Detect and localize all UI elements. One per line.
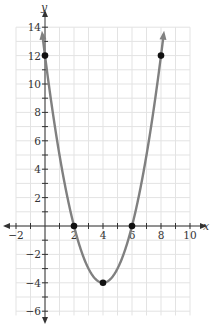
y-tick-label: −4 xyxy=(26,277,42,289)
x-tick-label: 10 xyxy=(183,229,196,241)
data-point xyxy=(100,280,107,287)
y-tick-label: 6 xyxy=(34,135,41,147)
grid xyxy=(16,27,190,315)
y-tick-label: −2 xyxy=(26,248,41,260)
x-tick-label: −2 xyxy=(8,229,23,241)
y-tick-label: 12 xyxy=(28,50,41,62)
data-point xyxy=(71,223,78,230)
x-tick-label: 4 xyxy=(100,229,107,241)
y-tick-label: 8 xyxy=(34,106,41,118)
x-axis-label: x xyxy=(203,220,210,233)
y-axis-label: y xyxy=(40,1,48,14)
data-point xyxy=(129,223,136,230)
y-tick-label: 14 xyxy=(28,21,42,33)
y-axis-down-arrow-icon xyxy=(42,317,48,324)
data-point xyxy=(158,52,165,59)
x-tick-label: 8 xyxy=(158,229,165,241)
y-tick-label: −6 xyxy=(26,305,42,317)
data-point xyxy=(42,52,49,59)
y-tick-label: 10 xyxy=(28,78,41,90)
y-tick-label: 4 xyxy=(34,163,41,175)
parabola-chart: −2246810−6−4−22468101214 x y xyxy=(0,0,215,326)
y-tick-label: 2 xyxy=(34,192,41,204)
